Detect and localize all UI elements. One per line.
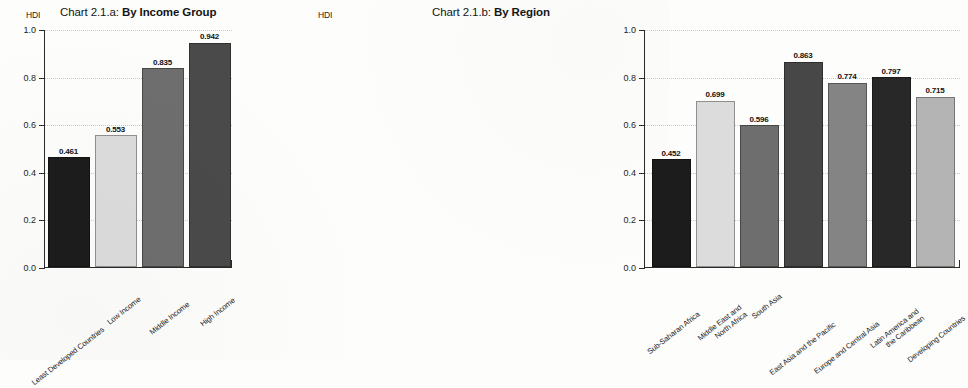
chart-a-y-tick-label: 0.6 [23,120,36,130]
chart-a-bar[interactable]: 0.553 [95,135,137,267]
chart-a-bar-slot: 0.835 [142,30,184,267]
chart-b-bar-slot: 0.452 [652,30,691,267]
chart-a-bar-slot: 0.553 [95,30,137,267]
chart-a-y-tick-label: 0.8 [23,73,36,83]
chart-b-plot-area: 1.00.80.60.40.20.0 0.4520.6990.5960.8630… [644,30,960,268]
chart-b-y-axis-label: HDI [318,10,332,20]
chart-b-bars: 0.4520.6990.5960.8630.7740.7970.715 [645,30,960,267]
chart-b-y-tick-label: 1.0 [623,25,636,35]
chart-a-y-tick-label: 0.0 [23,263,36,273]
chart-a-bar-value-label: 0.553 [106,125,125,134]
chart-a-title-bold: By Income Group [122,6,216,18]
chart-a-bar-value-label: 0.461 [59,147,78,156]
chart-a-bar[interactable]: 0.835 [142,68,184,267]
chart-b-x-axis-label: Sub-Saharan Africa [647,310,703,356]
chart-b-x-axis-labels: Sub-Saharan AfricaMiddle East andNorth A… [645,267,960,359]
chart-b-y-tick-label: 0.4 [623,168,636,178]
chart-b-bar-value-label: 0.774 [837,72,856,81]
chart-b-bar-value-label: 0.797 [881,67,900,76]
chart-a-title-prefix: Chart 2.1.a: [60,6,122,18]
chart-panel-income-group: Chart 2.1.a: By Income Group HDI 1.00.80… [0,0,300,360]
chart-a-bar-slot: 0.461 [48,30,90,267]
chart-b-bar-slot: 0.774 [828,30,867,267]
chart-panel-region: Chart 2.1.b: By Region HDI 1.00.80.60.40… [310,0,669,360]
chart-a-y-axis-label: HDI [26,10,40,20]
chart-b-axis-endcap [959,260,960,267]
chart-a-x-axis-label: Middle Income [148,301,191,338]
chart-a-title: Chart 2.1.a: By Income Group [60,6,216,18]
chart-a-bar[interactable]: 0.461 [48,157,90,267]
chart-b-bar-value-label: 0.715 [925,86,944,95]
chart-b-bar-slot: 0.797 [872,30,911,267]
chart-b-title-bold: By Region [494,6,550,18]
chart-a-axis-endcap [231,260,232,267]
chart-a-x-axis-labels: Least Developed CountriesLow IncomeMiddl… [45,267,232,359]
chart-b-y-tick-label: 0.8 [623,73,636,83]
chart-a-bar[interactable]: 0.942 [189,43,231,267]
chart-b-bar-value-label: 0.699 [705,90,724,99]
chart-b-bar[interactable]: 0.715 [916,97,955,267]
chart-b-bar-slot: 0.863 [784,30,823,267]
chart-b-y-tick-label: 0.2 [623,215,636,225]
chart-a-plot-area: 1.00.80.60.40.20.0 0.4610.5530.8350.942 … [44,30,232,268]
chart-b-bar-value-label: 0.863 [793,51,812,60]
chart-b-bar-slot: 0.699 [696,30,735,267]
chart-a-bar-value-label: 0.835 [153,58,172,67]
chart-a-x-axis-label: Low Income [106,296,143,328]
chart-a-x-axis-label: High Income [199,297,237,330]
chart-b-title-prefix: Chart 2.1.b: [432,6,494,18]
chart-a-bar-slot: 0.942 [189,30,231,267]
chart-b-bar-slot: 0.596 [740,30,779,267]
chart-b-x-axis-label: Middle East andNorth Africa [697,304,750,351]
chart-b-bar[interactable]: 0.797 [872,77,911,267]
chart-b-bar-value-label: 0.452 [661,149,680,158]
chart-b-y-tick-label: 0.6 [623,120,636,130]
chart-a-bars: 0.4610.5530.8350.942 [45,30,232,267]
chart-a-x-axis-label: Least Developed Countries [31,326,107,388]
chart-b-bar-slot: 0.715 [916,30,955,267]
chart-b-bar[interactable]: 0.596 [740,125,779,267]
chart-b-y-tick-label: 0.0 [623,263,636,273]
chart-b-bar[interactable]: 0.452 [652,159,691,267]
chart-a-y-tick-label: 0.2 [23,215,36,225]
chart-b-bar[interactable]: 0.863 [784,62,823,267]
chart-b-x-axis-label: East Asia and the Pacific [769,321,838,378]
chart-b-bar-value-label: 0.596 [749,115,768,124]
chart-b-bar[interactable]: 0.699 [696,101,735,267]
chart-b-x-axis-label: South Asia [751,293,784,322]
chart-a-y-tick-label: 0.4 [23,168,36,178]
chart-a-y-tick-label: 1.0 [23,25,36,35]
chart-b-title: Chart 2.1.b: By Region [432,6,550,18]
chart-b-bar[interactable]: 0.774 [828,83,867,267]
chart-a-bar-value-label: 0.942 [200,32,219,41]
